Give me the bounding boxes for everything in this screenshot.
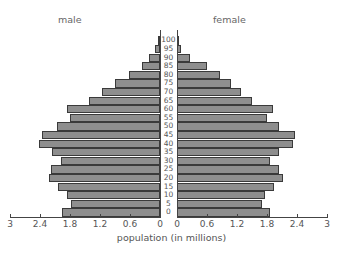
age-label-5: 5 (160, 200, 177, 209)
female-bar-25 (177, 165, 279, 173)
male-bar-90 (149, 54, 160, 62)
age-label-30: 30 (160, 157, 177, 166)
male-tick (10, 214, 11, 217)
age-label-15: 15 (160, 183, 177, 192)
age-label-70: 70 (160, 88, 177, 97)
male-bar-20 (49, 174, 160, 182)
male-bar-65 (89, 97, 160, 105)
female-bar-75 (177, 79, 231, 87)
female-bar-40 (177, 140, 293, 148)
female-tick (237, 214, 238, 217)
male-bar-10 (67, 191, 160, 199)
female-bar-50 (177, 122, 279, 130)
male-tick (160, 214, 161, 217)
male-bar-80 (129, 71, 160, 79)
male-bar-50 (57, 122, 160, 130)
male-bar-85 (142, 62, 160, 70)
male-bar-70 (102, 88, 160, 96)
male-bar-25 (51, 165, 160, 173)
female-tick-label: 0.6 (192, 219, 222, 229)
male-tick (100, 214, 101, 217)
female-tick-label: 2.4 (282, 219, 312, 229)
age-label-20: 20 (160, 174, 177, 183)
female-bar-15 (177, 183, 274, 191)
male-bar-55 (70, 114, 160, 122)
age-label-10: 10 (160, 191, 177, 200)
female-center-axis (177, 30, 178, 218)
male-bar-30 (61, 157, 160, 165)
male-bar-15 (58, 183, 160, 191)
age-label-50: 50 (160, 122, 177, 131)
male-bar-45 (42, 131, 160, 139)
age-label-85: 85 (160, 62, 177, 71)
age-label-45: 45 (160, 131, 177, 140)
female-tick-label: 0 (162, 219, 192, 229)
female-bar-90 (177, 54, 190, 62)
female-bar-0 (177, 208, 270, 216)
female-bar-85 (177, 62, 207, 70)
female-tick-label: 1.8 (252, 219, 282, 229)
age-label-25: 25 (160, 165, 177, 174)
female-tick-label: 3 (312, 219, 342, 229)
age-label-35: 35 (160, 148, 177, 157)
male-tick (130, 214, 131, 217)
female-tick (207, 214, 208, 217)
male-bar-35 (52, 148, 160, 156)
female-bar-30 (177, 157, 270, 165)
male-bar-0 (62, 208, 160, 216)
age-label-40: 40 (160, 140, 177, 149)
female-bar-5 (177, 200, 262, 208)
male-tick (40, 214, 41, 217)
female-bar-20 (177, 174, 283, 182)
male-bar-75 (115, 79, 160, 87)
female-bar-10 (177, 191, 265, 199)
female-bar-70 (177, 88, 241, 96)
female-tick-label: 1.2 (222, 219, 252, 229)
male-x-axis (10, 217, 161, 218)
female-bar-55 (177, 114, 267, 122)
male-tick-label: 2.4 (25, 219, 55, 229)
age-label-75: 75 (160, 79, 177, 88)
male-tick-label: 0.6 (115, 219, 145, 229)
female-x-axis (177, 217, 328, 218)
female-label: female (213, 14, 246, 25)
male-tick-label: 3 (0, 219, 25, 229)
male-bar-60 (67, 105, 160, 113)
female-tick (177, 214, 178, 217)
female-tick (297, 214, 298, 217)
age-label-80: 80 (160, 71, 177, 80)
female-bar-65 (177, 97, 252, 105)
age-label-55: 55 (160, 114, 177, 123)
male-bar-40 (39, 140, 160, 148)
age-label-60: 60 (160, 105, 177, 114)
x-axis-title: population (in millions) (0, 232, 343, 243)
male-tick (70, 214, 71, 217)
age-label-0: 0 (160, 208, 177, 217)
female-bar-45 (177, 131, 295, 139)
age-label-90: 90 (160, 54, 177, 63)
male-tick-label: 1.8 (55, 219, 85, 229)
male-center-axis (160, 30, 161, 218)
female-bar-35 (177, 148, 279, 156)
age-label-100: 100 (160, 36, 177, 45)
age-label-65: 65 (160, 97, 177, 106)
female-bar-80 (177, 71, 220, 79)
female-tick (267, 214, 268, 217)
age-label-95: 95 (160, 45, 177, 54)
female-tick (327, 214, 328, 217)
male-tick-label: 1.2 (85, 219, 115, 229)
male-bar-5 (71, 200, 160, 208)
male-label: male (58, 14, 82, 25)
female-bar-60 (177, 105, 273, 113)
